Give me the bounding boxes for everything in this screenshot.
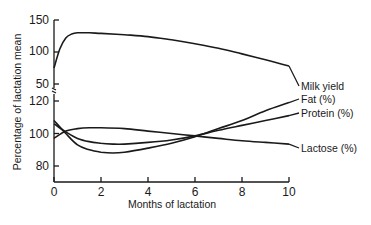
axes: [52, 20, 289, 182]
line-protein: [54, 116, 289, 145]
leader-line: [289, 144, 299, 148]
legend-protein: Protein (%): [301, 107, 354, 119]
y-tick-label-80: 80: [36, 159, 50, 173]
data-lines: [54, 33, 289, 153]
y-tick-label-100-lower: 100: [29, 127, 49, 141]
x-axis-title: Months of lactation: [128, 198, 216, 210]
y-tick-label-150: 150: [29, 13, 49, 27]
legend-lactose: Lactose (%): [301, 142, 357, 154]
y-tick-label-50: 50: [36, 77, 50, 91]
x-tick-label-2: 2: [98, 185, 105, 199]
axis-break-icon: [52, 88, 56, 93]
x-tick-label-8: 8: [239, 185, 246, 199]
leader-line: [289, 99, 299, 103]
leader-line: [289, 66, 299, 86]
line-milk-yield: [54, 33, 289, 68]
leader-line: [289, 113, 299, 116]
legend-fat: Fat (%): [301, 93, 335, 105]
legend-leaders: [289, 66, 299, 148]
x-tick-label-4: 4: [145, 185, 152, 199]
y-axis-title: Percentage of lactation mean: [11, 34, 23, 171]
y-tick-label-100-upper: 100: [29, 44, 49, 58]
lactation-chart: Percentage of lactation mean Months of l…: [0, 0, 371, 225]
x-tick-label-10: 10: [282, 185, 296, 199]
y-tick-label-120: 120: [29, 94, 49, 108]
x-tick-label-6: 6: [192, 185, 199, 199]
legend-milk-yield: Milk yield: [301, 80, 344, 92]
x-tick-label-0: 0: [51, 185, 58, 199]
